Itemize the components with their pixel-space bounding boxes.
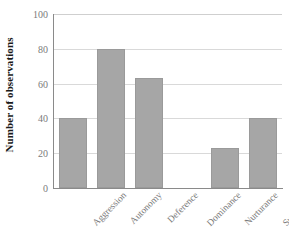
x-tick-label-deference: Deference xyxy=(165,190,200,225)
plot-area xyxy=(54,14,282,188)
x-axis-tick-labels: AggressionAutonomyDeferenceDominanceNurt… xyxy=(54,190,282,239)
x-tick-label-succorance: Succorance xyxy=(280,190,289,228)
bar-deference[interactable] xyxy=(135,78,163,188)
gridline-100 xyxy=(54,14,282,15)
bar-succorance[interactable] xyxy=(249,118,277,188)
y-tick-label-0: 0 xyxy=(9,183,53,194)
y-tick-label-40: 40 xyxy=(9,113,53,124)
gridline-20 xyxy=(54,153,282,154)
x-tick-label-aggression: Aggression xyxy=(90,190,128,228)
gridline-60 xyxy=(54,84,282,85)
y-tick-label-20: 20 xyxy=(9,148,53,159)
bar-autonomy[interactable] xyxy=(97,49,125,188)
x-axis-line xyxy=(53,188,283,189)
gridline-40 xyxy=(54,118,282,119)
bar-nurturance[interactable] xyxy=(211,148,239,188)
y-tick-label-100: 100 xyxy=(9,9,53,20)
y-axis-tick-labels: 020406080100 xyxy=(0,14,53,188)
y-tick-label-80: 80 xyxy=(9,43,53,54)
bar-chart-figure: Number of observations 020406080100 Aggr… xyxy=(0,0,289,239)
y-tick-label-60: 60 xyxy=(9,78,53,89)
x-tick-label-dominance: Dominance xyxy=(204,190,242,228)
gridline-80 xyxy=(54,49,282,50)
x-tick-label-nurturance: Nurturance xyxy=(242,190,279,227)
x-tick-label-autonomy: Autonomy xyxy=(127,190,163,226)
y-axis-line xyxy=(53,14,54,189)
bar-aggression[interactable] xyxy=(59,118,87,188)
